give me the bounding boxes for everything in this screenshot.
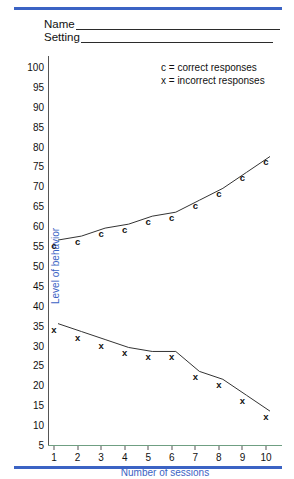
- series-line-x: [58, 324, 270, 412]
- data-marker-c: c: [98, 229, 103, 239]
- y-axis-tick: 60: [33, 221, 44, 232]
- data-lines: [48, 56, 282, 446]
- data-marker-x: x: [122, 349, 127, 359]
- data-marker-x: x: [263, 412, 268, 422]
- data-marker-x: x: [98, 341, 103, 351]
- data-marker-x: x: [193, 373, 198, 383]
- y-axis-tick: 55: [33, 241, 44, 252]
- y-axis-tick: 30: [33, 340, 44, 351]
- name-field-label: Name: [44, 18, 75, 30]
- x-axis-tick-mark: [242, 446, 243, 450]
- chart-page: Name Setting c = correct responses x = i…: [0, 0, 294, 479]
- y-axis-tick: 20: [33, 380, 44, 391]
- x-axis-tick: 6: [169, 452, 175, 463]
- y-axis-tick: 45: [33, 280, 44, 291]
- y-axis-tick: 25: [33, 360, 44, 371]
- x-axis-tick-mark: [101, 446, 102, 450]
- data-marker-x: x: [216, 381, 221, 391]
- x-axis-tick: 5: [145, 452, 151, 463]
- y-axis-tick: 75: [33, 161, 44, 172]
- setting-field-label: Setting: [44, 31, 80, 43]
- x-axis-tick: 8: [216, 452, 222, 463]
- x-axis-tick: 1: [51, 452, 57, 463]
- data-marker-c: c: [216, 190, 221, 200]
- y-axis-tick: 10: [33, 420, 44, 431]
- x-axis-tick: 7: [193, 452, 199, 463]
- y-axis-tick: 95: [33, 81, 44, 92]
- x-axis-tick-mark: [77, 446, 78, 450]
- data-marker-x: x: [146, 353, 151, 363]
- y-axis-tick: 15: [33, 400, 44, 411]
- name-field[interactable]: Name: [44, 18, 280, 30]
- series-line-c: [58, 156, 270, 240]
- y-axis-tick: 50: [33, 260, 44, 271]
- data-marker-c: c: [51, 241, 56, 251]
- data-marker-c: c: [169, 213, 174, 223]
- name-field-line[interactable]: [76, 19, 280, 30]
- x-axis-tick-mark: [54, 446, 55, 450]
- x-axis-tick: 2: [75, 452, 81, 463]
- data-marker-c: c: [75, 237, 80, 247]
- top-divider-rule: [14, 7, 282, 10]
- y-axis-tick: 80: [33, 141, 44, 152]
- setting-field-line[interactable]: [81, 32, 273, 43]
- y-axis-tick: 35: [33, 320, 44, 331]
- setting-field[interactable]: Setting: [44, 31, 273, 43]
- x-axis-tick-mark: [171, 446, 172, 450]
- data-marker-c: c: [240, 174, 245, 184]
- y-axis-tick: 70: [33, 181, 44, 192]
- x-axis-tick: 10: [260, 452, 271, 463]
- y-axis-tick: 85: [33, 121, 44, 132]
- y-axis-tick: 5: [38, 440, 44, 451]
- data-marker-x: x: [169, 353, 174, 363]
- x-axis-tick-mark: [218, 446, 219, 450]
- x-axis-tick: 3: [98, 452, 104, 463]
- data-marker-x: x: [51, 325, 56, 335]
- data-marker-x: x: [240, 396, 245, 406]
- y-axis-tick: 40: [33, 300, 44, 311]
- data-marker-c: c: [193, 202, 198, 212]
- y-axis-tick: 90: [33, 101, 44, 112]
- y-axis-tick: 65: [33, 201, 44, 212]
- x-axis-tick-mark: [124, 446, 125, 450]
- y-axis-tick: 100: [27, 62, 44, 73]
- plot-area: Level of behavior Number of sessions 100…: [48, 56, 282, 446]
- data-marker-c: c: [122, 225, 127, 235]
- bottom-divider-rule: [14, 466, 282, 469]
- x-axis-tick-mark: [148, 446, 149, 450]
- data-marker-x: x: [75, 333, 80, 343]
- x-axis-tick: 4: [122, 452, 128, 463]
- x-axis-tick-mark: [195, 446, 196, 450]
- data-marker-c: c: [263, 158, 268, 168]
- x-axis-tick: 9: [240, 452, 246, 463]
- data-marker-c: c: [146, 217, 151, 227]
- x-axis-tick-mark: [266, 446, 267, 450]
